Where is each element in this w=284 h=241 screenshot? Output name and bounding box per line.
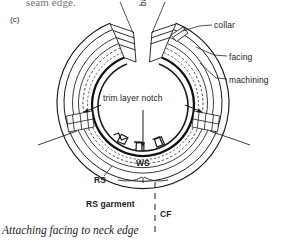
callout-trim-layer-notch: trim layer notch [103,94,163,103]
callout-facing: facing [229,53,252,62]
callout-rs: RS [94,176,106,185]
cf-brackets [118,177,168,183]
callout-ws: WS [136,159,150,168]
callout-back-opening: back opening [139,0,148,6]
callout-collar: collar [214,21,235,30]
callout-cf: CF [160,210,172,219]
leader-collar [183,25,212,31]
figure-caption: Attaching facing to neck edge [2,224,139,236]
callout-machining: machining [229,76,269,85]
callout-rs-garment: RS garment [86,200,135,209]
neckline-diagram-svg [0,0,284,241]
left-shoulder-tab [67,111,95,132]
left-shoulder-seam [38,131,77,145]
continued-text-seam-edge: seam edge. [26,0,76,8]
right-shoulder-tab [192,111,220,132]
subfigure-label: (c) [10,16,20,24]
figure-attaching-facing-to-neck-edge: seam edge. (c) back opening collar facin… [0,0,284,241]
